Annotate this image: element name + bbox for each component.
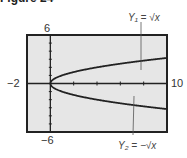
xmax-label: 10	[171, 77, 183, 89]
y1-equation-label: Y₁ = √x	[128, 12, 160, 23]
y2-equation-label: Y₂ = −√x	[118, 140, 156, 151]
xmin-label: −2	[7, 77, 20, 89]
graph-screen	[0, 0, 187, 158]
ymax-label: 6	[44, 22, 50, 34]
ymin-label: −6	[41, 134, 54, 146]
